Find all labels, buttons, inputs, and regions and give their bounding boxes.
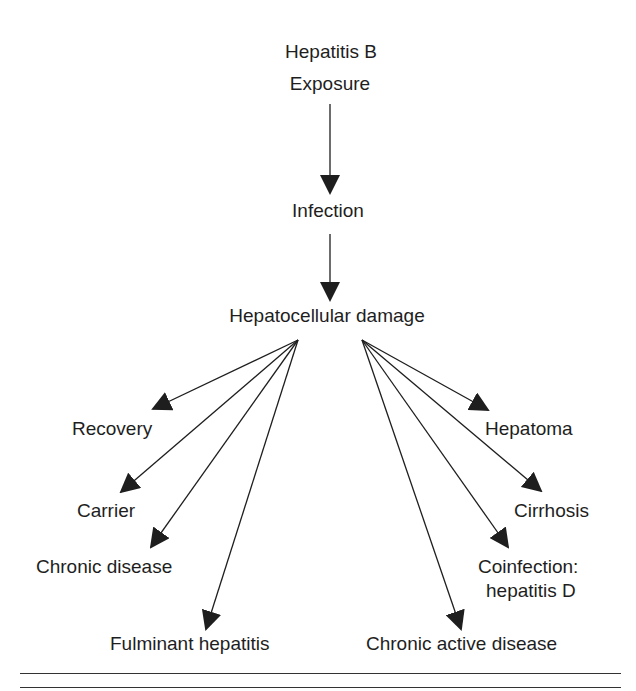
node-carrier: Carrier: [77, 500, 135, 522]
node-hepatocellular-damage: Hepatocellular damage: [229, 305, 424, 327]
diagram-title: Hepatitis B: [285, 41, 377, 63]
arrow-to-recovery: [153, 340, 298, 409]
node-recovery: Recovery: [72, 418, 152, 440]
node-coinfection-line1: Coinfection:: [478, 556, 578, 578]
hepatitis-b-flow-diagram: Hepatitis B Exposure Infection Hepatocel…: [0, 0, 636, 691]
bottom-rule-upper: [20, 673, 621, 674]
node-chronic-disease: Chronic disease: [36, 556, 172, 578]
arrow-to-fulminant-hepatitis: [206, 340, 298, 629]
arrow-to-carrier: [121, 340, 298, 492]
node-coinfection-line2: hepatitis D: [486, 580, 576, 602]
arrow-to-cirrhosis: [362, 340, 541, 491]
node-fulminant-hepatitis: Fulminant hepatitis: [110, 633, 269, 655]
arrow-to-chronic-active-disease: [362, 340, 461, 629]
arrow-to-hepatoma: [362, 340, 488, 410]
node-hepatoma: Hepatoma: [485, 418, 573, 440]
node-exposure: Exposure: [290, 73, 370, 95]
node-cirrhosis: Cirrhosis: [514, 500, 589, 522]
arrow-to-coinfection: [362, 340, 508, 547]
bottom-rule-lower: [20, 687, 621, 688]
arrow-to-chronic-disease: [151, 340, 298, 547]
node-chronic-active-disease: Chronic active disease: [366, 633, 557, 655]
node-infection: Infection: [292, 200, 364, 222]
